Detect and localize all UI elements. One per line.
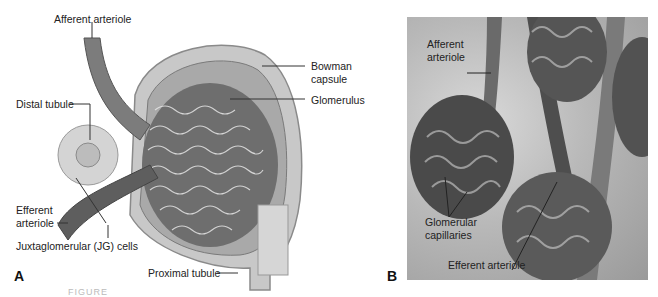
label-bowman-capsule-2: capsule — [311, 73, 347, 85]
label-efferent-arteriole-a-2: arteriole — [16, 217, 54, 229]
label-bowman-capsule-1: Bowman — [311, 60, 352, 72]
label-distal-tubule: Distal tubule — [16, 98, 74, 110]
label-jg-cells: Juxtaglomerular (JG) cells — [16, 240, 138, 252]
panel-letter-a: A — [14, 268, 24, 284]
label-glomerular-capillaries-2: capillaries — [425, 229, 472, 241]
label-efferent-arteriole-b: Efferent arteriole — [448, 259, 525, 271]
label-afferent-arteriole-b-2: arteriole — [427, 51, 465, 63]
label-afferent-arteriole-b-1: Afferent — [427, 38, 464, 50]
label-glomerular-capillaries-1: Glomerular — [425, 216, 477, 228]
panel-letter-b: B — [387, 268, 397, 284]
label-glomerulus: Glomerulus — [311, 94, 365, 106]
label-proximal-tubule: Proximal tubule — [148, 267, 220, 279]
label-afferent-arteriole-a: Afferent arteriole — [54, 13, 131, 25]
label-efferent-arteriole-a-1: Efferent — [16, 204, 53, 216]
figure-caption-partial: FIGURE — [68, 287, 108, 297]
